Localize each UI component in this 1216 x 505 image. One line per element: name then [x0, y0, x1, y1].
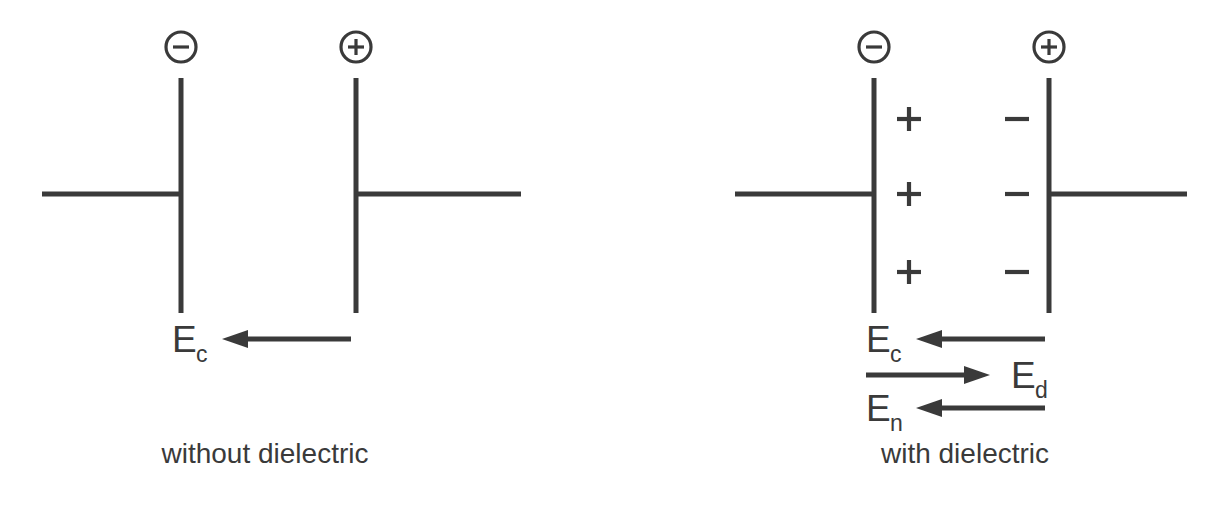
field-arrow-ec — [916, 330, 1045, 348]
capacitor-dielectric-figure: E c without dielectric — [0, 0, 1216, 505]
plus-circle-icon — [341, 32, 371, 62]
field-label-en-subscript: n — [890, 410, 903, 436]
field-arrow-ec — [222, 330, 351, 348]
diagram-canvas: E c without dielectric — [0, 0, 1216, 505]
plus-circle-icon — [1034, 32, 1064, 62]
induced-charge-plus-3 — [897, 260, 921, 284]
induced-charge-plus-2 — [897, 182, 921, 206]
field-label-ed: E — [1011, 355, 1036, 396]
panel-with-dielectric: E c E d E n with dielectric — [735, 32, 1187, 469]
field-label-ec: E — [866, 319, 891, 360]
field-arrow-en — [916, 399, 1045, 417]
field-label-ec-subscript: c — [196, 341, 208, 367]
caption-without-dielectric: without dielectric — [161, 438, 369, 469]
field-arrow-ed — [866, 366, 990, 384]
field-label-ec: E — [172, 319, 197, 360]
caption-with-dielectric: with dielectric — [880, 438, 1049, 469]
minus-circle-icon — [859, 32, 889, 62]
field-label-en: E — [866, 388, 891, 429]
panel-without-dielectric: E c without dielectric — [42, 32, 521, 469]
field-label-ed-subscript: d — [1035, 377, 1048, 403]
induced-charge-plus-1 — [897, 107, 921, 131]
field-label-ec-subscript: c — [890, 341, 902, 367]
minus-circle-icon — [166, 32, 196, 62]
